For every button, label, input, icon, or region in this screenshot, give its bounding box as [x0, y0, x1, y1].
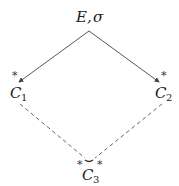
c1-subscript: 1 — [21, 92, 27, 103]
top-node-sigma: σ — [93, 8, 104, 26]
top-node-label: E, — [75, 8, 92, 26]
star-marker: * — [12, 69, 18, 82]
edge-c1-to-c3 — [20, 104, 85, 158]
edge-top-to-c1 — [19, 31, 89, 82]
left-node-c1: * C 1 — [10, 69, 27, 103]
edge-c2-to-c3 — [95, 104, 162, 158]
star-marker: * — [161, 69, 167, 82]
c3-subscript: 3 — [93, 174, 99, 185]
c2-subscript: 2 — [166, 92, 172, 103]
top-node: E, σ — [75, 8, 104, 26]
edge-top-to-c2 — [89, 31, 159, 82]
right-node-c2: * C 2 — [155, 69, 172, 103]
star-marker: * — [97, 158, 103, 171]
join-mark — [85, 160, 93, 162]
diagram-canvas: E, σ * C 1 * C 2 * * C 3 — [0, 0, 179, 186]
